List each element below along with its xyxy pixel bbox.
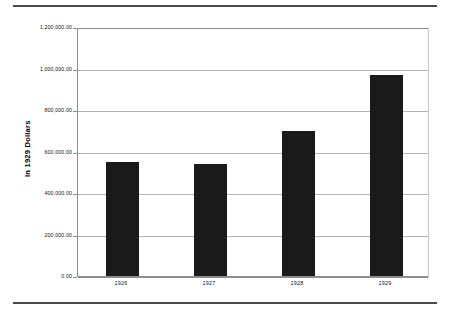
x-axis-tick-label: 1929	[355, 281, 415, 286]
bar-1928	[282, 131, 315, 276]
y-axis-tick-label: 200,000.00	[0, 233, 72, 238]
figure-container: In 1929 Dollars 0.00200,000.00400,000.00…	[0, 0, 455, 314]
figure-bottom-rule	[13, 302, 437, 304]
y-axis-tick-label: 1,200,000.00	[0, 25, 72, 30]
gridline	[78, 277, 428, 278]
x-axis-tick-label: 1928	[267, 281, 327, 286]
gridline	[78, 28, 428, 29]
plot-area	[77, 28, 429, 277]
y-axis-tick-label: 800,000.00	[0, 108, 72, 113]
y-axis-tick-label: 400,000.00	[0, 191, 72, 196]
y-axis-tick-label: 0.00	[0, 274, 72, 279]
y-axis-tick-label: 600,000.00	[0, 150, 72, 155]
figure-top-rule	[13, 5, 437, 7]
y-axis-tick-mark	[73, 277, 77, 278]
x-axis-tick-label: 1926	[91, 281, 151, 286]
y-axis-tick-label: 1,000,000.00	[0, 67, 72, 72]
x-axis-tick-label: 1927	[179, 281, 239, 286]
bar-1927	[194, 164, 227, 276]
gridline	[78, 70, 428, 71]
bar-1926	[106, 162, 139, 276]
bar-1929	[370, 75, 403, 276]
